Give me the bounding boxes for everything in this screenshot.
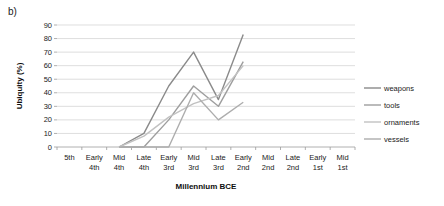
y-tick-label: 20 xyxy=(44,115,52,124)
y-tick-label: 10 xyxy=(44,129,52,138)
y-tick-label: 50 xyxy=(44,75,52,84)
line-chart: 0102030405060708090 5thEarly4thMid4thLat… xyxy=(0,0,444,206)
y-axis-title-group: Ubiquity (%) xyxy=(15,62,24,109)
y-axis-ticks-group: 0102030405060708090 xyxy=(44,21,57,152)
x-tick-label: Early2nd xyxy=(235,153,252,172)
x-tick-label: Early1st xyxy=(309,153,326,172)
x-tick-label: Mid2nd xyxy=(262,153,275,172)
legend-group: weaponstoolsornamentsvessels xyxy=(364,84,420,144)
x-axis-title: Millennium BCE xyxy=(176,182,238,191)
y-tick-label: 70 xyxy=(44,48,52,57)
legend-label-ornaments[interactable]: ornaments xyxy=(384,118,420,127)
legend-label-tools[interactable]: tools xyxy=(384,101,400,110)
y-tick-label: 90 xyxy=(44,21,52,30)
legend-label-weapons[interactable]: weapons xyxy=(383,84,414,93)
x-tick-label: Late3rd xyxy=(211,153,226,172)
data-series-group xyxy=(119,34,243,147)
y-tick-label: 80 xyxy=(44,34,52,43)
gridlines-group xyxy=(57,25,355,147)
x-tick-label: Early4th xyxy=(86,153,103,172)
series-line-weapons xyxy=(119,34,243,147)
y-tick-label: 40 xyxy=(44,88,52,97)
y-tick-label: 0 xyxy=(48,143,52,152)
chart-panel: b) 0102030405060708090 5thEarly4thMid4th… xyxy=(0,0,444,206)
x-tick-label: 5th xyxy=(64,153,74,162)
y-tick-label: 30 xyxy=(44,102,52,111)
series-line-tools xyxy=(119,62,243,147)
x-tick-label: Mid4th xyxy=(113,153,125,172)
x-tick-label: Early3rd xyxy=(160,153,177,172)
y-tick-label: 60 xyxy=(44,61,52,70)
x-axis-labels-group: 5thEarly4thMid4thLate4thEarly3rdMid3rdLa… xyxy=(64,153,348,172)
x-tick-label: Late4th xyxy=(137,153,152,172)
x-axis-title-group: Millennium BCE xyxy=(176,182,238,191)
x-axis-group xyxy=(57,147,355,150)
x-tick-label: Late2nd xyxy=(286,153,301,172)
x-tick-label: Mid3rd xyxy=(188,153,200,172)
y-axis-title: Ubiquity (%) xyxy=(15,62,24,109)
x-tick-label: Mid1st xyxy=(337,153,349,172)
legend-label-vessels[interactable]: vessels xyxy=(384,135,409,144)
